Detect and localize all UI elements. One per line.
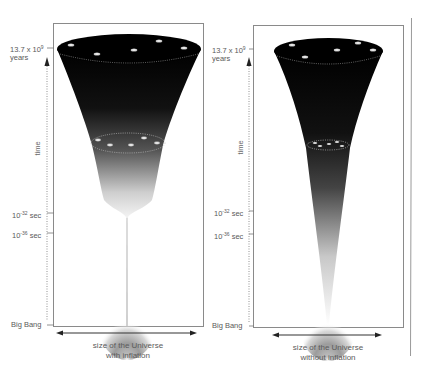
pre-inflation-stem (126, 215, 128, 326)
label-exponent: -32 (20, 210, 27, 216)
label-exponent: -32 (222, 208, 229, 214)
label-present-time: 13.7 x 109 years (212, 44, 246, 63)
time-axis-label: time (236, 140, 245, 154)
label-present-exponent: 9 (243, 45, 246, 51)
panel-with-inflation (45, 24, 204, 361)
label-exponent: -36 (20, 230, 27, 236)
caption-line-2: without inflation (248, 353, 408, 363)
size-arrow-left-icon (56, 331, 63, 336)
label-big-bang: Big Bang (11, 321, 41, 329)
label-present-unit: years (212, 54, 230, 63)
caption-line-1: size of the Universe (248, 343, 408, 353)
label-present-time: 13.7 x 109 years (10, 43, 44, 62)
label-10-32-sec: 10-32 sec (12, 209, 41, 220)
size-arrow-right-icon (190, 331, 197, 336)
label-present-unit: years (10, 53, 28, 62)
caption-with-inflation: size of the Universe with inflation (48, 341, 208, 361)
panel-without-inflation (247, 26, 404, 362)
label-10-36-sec: 10-36 sec (214, 230, 243, 241)
label-exponent: -36 (222, 231, 229, 237)
time-axis-arrowhead-icon (247, 57, 252, 66)
label-unit: sec (30, 211, 42, 220)
present-universe-disc (274, 38, 383, 64)
size-arrow-left-icon (272, 333, 279, 338)
time-axis-label: time (33, 141, 42, 155)
label-unit: sec (232, 232, 244, 241)
caption-line-2: with inflation (48, 351, 208, 361)
label-present-exponent: 9 (41, 44, 44, 50)
caption-without-inflation: size of the Universe without inflation (248, 343, 408, 363)
label-10-32-sec: 10-32 sec (214, 207, 243, 218)
label-10-36-sec: 10-36 sec (12, 229, 41, 240)
present-universe-disc (57, 34, 201, 64)
label-unit: sec (30, 231, 42, 240)
label-big-bang: Big Bang (212, 322, 242, 330)
label-unit: sec (232, 209, 244, 218)
time-axis-arrowhead-icon (45, 57, 50, 66)
page-divider (411, 18, 412, 356)
size-arrow-right-icon (375, 333, 382, 338)
caption-line-1: size of the Universe (48, 341, 208, 351)
